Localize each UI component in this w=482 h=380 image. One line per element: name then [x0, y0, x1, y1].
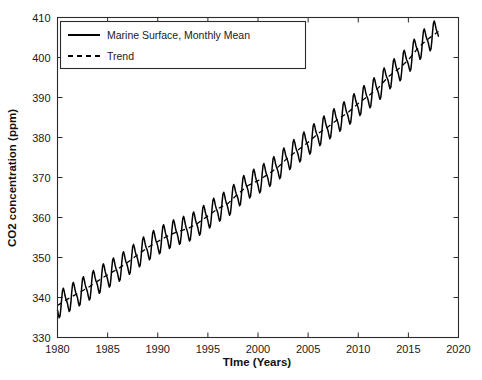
x-tick-label: 1995: [196, 343, 220, 355]
chart-legend: Marine Surface, Monthly Mean Trend: [61, 22, 306, 69]
x-tick-label: 1990: [146, 343, 170, 355]
legend-label-trend: Trend: [107, 50, 134, 62]
y-tick-label: 350: [32, 252, 50, 264]
y-tick-label: 390: [32, 92, 50, 104]
y-tick-label: 330: [32, 332, 50, 344]
x-tick-label: 2005: [296, 343, 320, 355]
y-tick-label: 400: [32, 52, 50, 64]
y-tick-label: 380: [32, 132, 50, 144]
y-tick-label: 410: [32, 12, 50, 24]
x-axis-title: TIme (Years): [223, 356, 292, 368]
x-tick-label: 2015: [396, 343, 420, 355]
x-tick-labels: 198019851990199520002005201020152020: [45, 343, 470, 355]
chart-canvas: 198019851990199520002005201020152020 330…: [0, 0, 482, 380]
x-tick-label: 2010: [346, 343, 370, 355]
x-tick-label: 2020: [446, 343, 470, 355]
y-tick-labels: 330340350360370380390400410: [32, 12, 50, 344]
y-axis-title: CO2 concentration (ppm): [6, 109, 18, 247]
legend-label-monthly-mean: Marine Surface, Monthly Mean: [107, 29, 250, 41]
y-tick-label: 360: [32, 212, 50, 224]
x-tick-label: 1980: [45, 343, 69, 355]
x-tick-label: 1985: [95, 343, 119, 355]
x-tick-label: 2000: [246, 343, 270, 355]
co2-chart-figure: 198019851990199520002005201020152020 330…: [0, 0, 482, 380]
y-tick-label: 370: [32, 172, 50, 184]
y-tick-label: 340: [32, 292, 50, 304]
